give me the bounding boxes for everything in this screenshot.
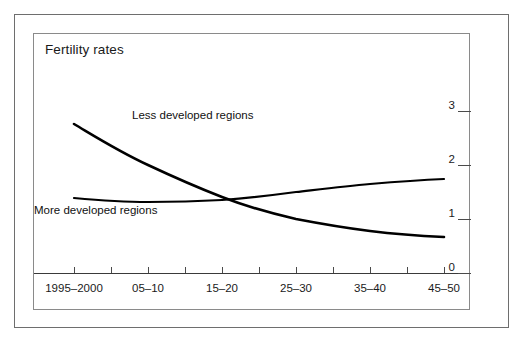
series-line-more-developed [74, 179, 444, 202]
x-tick-label-25-30: 25–30 [280, 282, 312, 294]
y-tick-label-1: 1 [449, 207, 455, 219]
x-tick-label-15-20: 15–20 [206, 282, 238, 294]
x-tick-label-35-40: 35–40 [354, 282, 386, 294]
y-tick-label-2: 2 [449, 153, 455, 165]
series-label-more-developed: More developed regions [34, 204, 158, 216]
series-line-less-developed [74, 124, 444, 237]
chart-panel: Fertility rates [33, 33, 470, 310]
x-axis-ticks [74, 267, 444, 273]
figure-root: Fertility rates [0, 0, 524, 343]
x-tick-label-1995-2000: 1995–2000 [45, 282, 103, 294]
y-axis-ticks [458, 111, 471, 273]
y-tick-label-3: 3 [449, 99, 455, 111]
x-tick-label-05-10: 05–10 [132, 282, 164, 294]
plot-area: 3 2 1 0 1995–2000 05–10 15–20 25–30 35–4… [34, 34, 471, 311]
x-tick-label-45-50: 45–50 [428, 282, 460, 294]
series-label-less-developed: Less developed regions [132, 109, 254, 121]
y-tick-label-0: 0 [449, 261, 455, 273]
